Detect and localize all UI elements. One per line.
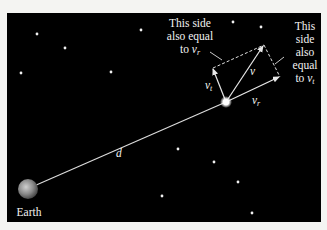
distance-label: d [116, 147, 122, 160]
vt-subscript: t [210, 84, 212, 93]
right-annotation-line-4: equal [288, 59, 322, 72]
star-dot [161, 195, 164, 198]
star-dot [237, 181, 240, 184]
right-annotation-line-1: This [288, 20, 322, 33]
star-dot [140, 29, 143, 32]
star-dot [260, 26, 263, 29]
star-dot [110, 71, 113, 74]
left-annotation-line-3: to vr [160, 43, 220, 59]
v-symbol: v [250, 65, 255, 77]
earth-icon [18, 179, 38, 199]
right-annotation-pointer [275, 57, 284, 64]
dashed-side-right [264, 45, 280, 77]
star-dot [213, 161, 216, 164]
left-annotation: This side also equal to vr [160, 17, 220, 59]
right-annotation: This side also equal to vt [288, 20, 322, 88]
source-star [223, 99, 229, 105]
left-annotation-line-2: also equal [160, 30, 220, 43]
vr-subscript: r [257, 99, 260, 108]
vt-label: vt [205, 79, 212, 95]
star-dot [251, 212, 254, 215]
star-dot [64, 47, 67, 50]
vr-label: vr [252, 94, 260, 110]
left-annotation-line-1: This side [160, 17, 220, 30]
right-annotation-line-3: also [288, 46, 322, 59]
right-annotation-line-5: to vt [288, 72, 322, 88]
star-dot [177, 148, 180, 151]
star-dot [36, 33, 39, 36]
distance-line [34, 102, 226, 186]
v-label: v [250, 65, 255, 78]
background-stars [20, 21, 263, 215]
star-dot [232, 21, 235, 24]
right-annotation-line-2: side [288, 33, 322, 46]
star-dot [20, 72, 23, 75]
earth-label: Earth [14, 206, 44, 219]
